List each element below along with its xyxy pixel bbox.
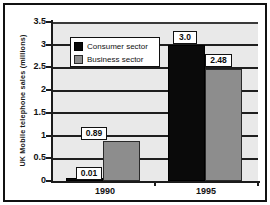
bar-business-1995 xyxy=(205,69,242,181)
x-tick-mark xyxy=(257,181,259,186)
gridline xyxy=(53,22,258,24)
bar-business-1990 xyxy=(103,141,140,181)
y-axis-spine xyxy=(51,20,53,183)
legend-label-consumer: Consumer sector xyxy=(87,42,148,51)
y-axis-tick-group: 3.5 3 2.5 2 1.5 1 0.5 0 xyxy=(0,0,46,205)
y-tick-label: 1.5 xyxy=(4,107,46,117)
x-tick-label-1995: 1995 xyxy=(171,186,241,196)
x-tick-mark xyxy=(154,181,156,186)
bar-consumer-1995 xyxy=(168,45,205,181)
y-tick-label: 0.5 xyxy=(4,152,46,162)
legend-item-business: Business sector xyxy=(74,53,156,65)
y-tick-label: 2 xyxy=(4,84,46,94)
y-tick-label: 0 xyxy=(4,175,46,185)
data-label-business-1990: 0.89 xyxy=(81,127,107,140)
x-tick-label-1990: 1990 xyxy=(70,186,140,196)
y-tick-label: 2.5 xyxy=(4,61,46,71)
y-tick-label: 3.5 xyxy=(4,16,46,26)
legend-label-business: Business sector xyxy=(87,55,143,64)
y-tick-label: 1 xyxy=(4,130,46,140)
legend-swatch-icon-consumer xyxy=(74,42,83,51)
bar-chart-figure: UK Mobile telephone sales (millions) 3.5… xyxy=(0,0,270,205)
chart-legend: Consumer sector Business sector xyxy=(70,37,160,67)
data-label-consumer-1995: 3.0 xyxy=(173,31,197,44)
data-label-business-1995: 2.48 xyxy=(205,54,232,67)
y-tick-label: 3 xyxy=(4,39,46,49)
data-label-consumer-1990: 0.01 xyxy=(76,167,102,180)
legend-item-consumer: Consumer sector xyxy=(74,40,156,52)
legend-swatch-icon-business xyxy=(74,55,83,64)
